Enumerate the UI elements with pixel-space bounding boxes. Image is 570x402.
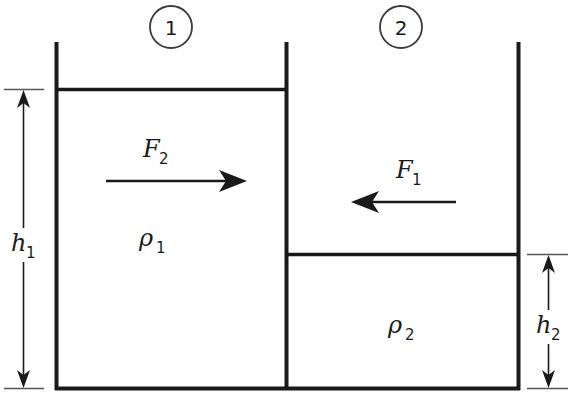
density-rho1-symbol: ρ <box>138 224 153 252</box>
dimension-h1-subscript: 1 <box>26 244 36 262</box>
badge-label-2: 2 <box>395 16 408 40</box>
density-label-rho2: ρ 2 <box>387 311 415 344</box>
dimension-h1: h 1 <box>4 90 44 389</box>
compartment-badge-2: 2 <box>380 6 422 48</box>
dimension-h1-symbol: h <box>11 229 26 257</box>
badge-label-1: 1 <box>165 16 178 40</box>
compartment-badge-1: 1 <box>150 6 192 48</box>
physics-figure: 1 2 F 2 F 1 ρ 1 <box>0 0 570 402</box>
dimension-h2: h 2 <box>527 255 568 389</box>
force-arrow-F2: F 2 <box>106 135 247 192</box>
density-rho2-symbol: ρ <box>387 311 402 339</box>
figure-canvas: 1 2 F 2 F 1 ρ 1 <box>0 0 570 402</box>
dimension-h2-symbol: h <box>536 311 551 339</box>
force-label-F1-subscript: 1 <box>412 171 422 189</box>
force-label-F2-subscript: 2 <box>159 150 169 168</box>
force-arrow-F1: F 1 <box>351 156 456 213</box>
density-rho2-subscript: 2 <box>405 326 415 344</box>
density-rho1-subscript: 1 <box>156 239 166 257</box>
dimension-h2-subscript: 2 <box>551 326 561 344</box>
density-label-rho1: ρ 1 <box>138 224 166 257</box>
